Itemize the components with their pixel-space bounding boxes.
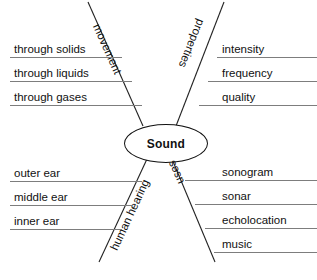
rule-intensity: [217, 57, 317, 58]
branch-line-human-hearing: [99, 159, 147, 262]
item-middle-ear: middle ear: [14, 191, 68, 203]
rule-through-liquids: [10, 81, 132, 82]
rule-quality: [199, 105, 317, 106]
item-frequency: frequency: [222, 67, 273, 79]
item-intensity: intensity: [222, 43, 264, 55]
center-node: Sound: [124, 124, 208, 163]
item-sonar: sonar: [222, 190, 251, 202]
rule-through-solids: [10, 57, 122, 58]
rule-inner-ear: [10, 229, 122, 230]
rule-music: [214, 252, 317, 253]
item-through-solids: through solids: [14, 43, 86, 55]
item-outer-ear: outer ear: [14, 167, 60, 179]
rule-echolocation: [205, 228, 317, 229]
item-echolocation: echolocation: [222, 214, 287, 226]
rule-through-gases: [10, 105, 142, 106]
item-sonogram: sonogram: [222, 166, 273, 178]
rule-middle-ear: [10, 205, 132, 206]
item-through-gases: through gases: [14, 91, 87, 103]
rule-sonar: [195, 204, 317, 205]
center-node-label: Sound: [147, 137, 185, 151]
rule-outer-ear: [10, 181, 142, 182]
item-music: music: [222, 238, 252, 250]
caption-fragment: [8, 268, 56, 277]
item-inner-ear: inner ear: [14, 215, 59, 227]
item-through-liquids: through liquids: [14, 67, 89, 79]
item-quality: quality: [222, 91, 255, 103]
rule-frequency: [208, 81, 317, 82]
rule-sonogram: [185, 180, 317, 181]
